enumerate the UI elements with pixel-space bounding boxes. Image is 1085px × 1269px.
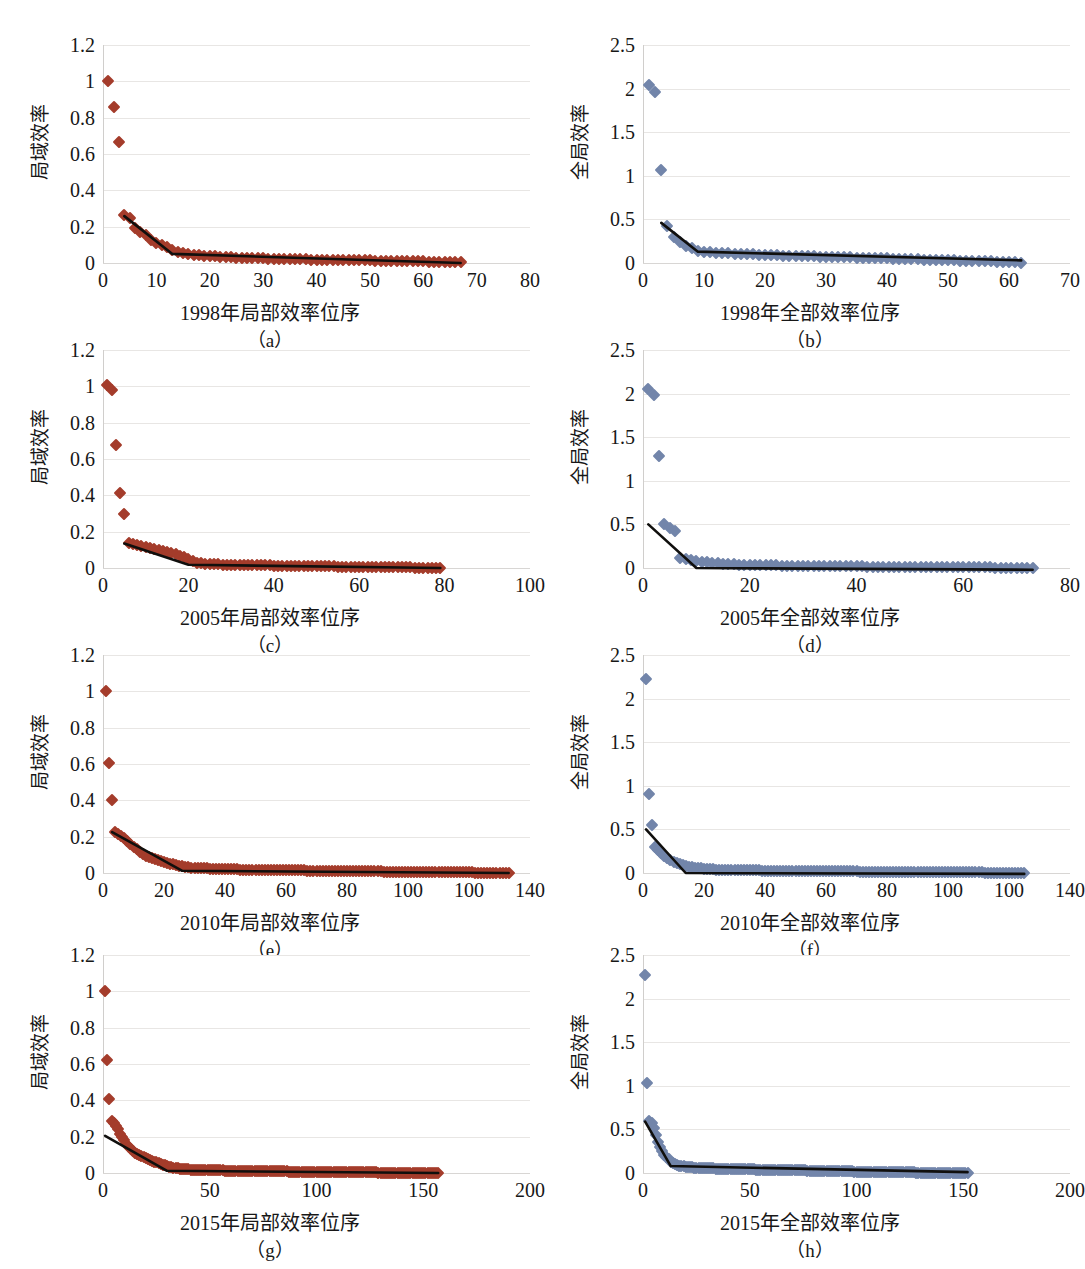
x-tick-label: 20: [755, 270, 775, 290]
fit-line-b: [643, 45, 1070, 263]
fit-line-g: [103, 955, 530, 1173]
x-tick-label: 100: [994, 880, 1024, 900]
y-tick-label: 0.5: [610, 514, 635, 534]
x-tick-label: 150: [948, 1180, 978, 1200]
chart-panel-b: 00.511.522.5010203040506070全局效率1998年全部效率…: [540, 30, 1080, 330]
y-tick-label: 0.6: [70, 754, 95, 774]
x-tick-label: 100: [842, 1180, 872, 1200]
x-axis-title: 2005年全部效率位序: [540, 602, 1080, 631]
chart-panel-c: 00.20.40.60.811.2020406080100局域效率2005年局部…: [0, 335, 540, 635]
y-tick-label: 0.4: [70, 485, 95, 505]
y-tick-label: 0: [625, 1163, 635, 1183]
x-tick-label: 60: [276, 880, 296, 900]
y-axis-title: 全局效率: [565, 714, 592, 790]
x-tick-label: 40: [877, 270, 897, 290]
plot-canvas-h: [643, 955, 1070, 1173]
x-tick-label: 80: [337, 880, 357, 900]
x-tick-label: 200: [1055, 1180, 1085, 1200]
y-tick-label: 0.5: [610, 209, 635, 229]
plot-area-a: 00.20.40.60.811.201020304050607080: [103, 45, 530, 263]
x-tick-label: 100: [302, 1180, 332, 1200]
y-tick-label: 0: [625, 863, 635, 883]
y-tick-label: 2.5: [610, 945, 635, 965]
chart-panel-a: 00.20.40.60.811.201020304050607080局域效率19…: [0, 30, 540, 330]
chart-panel-g: 00.20.40.60.811.2050100150200局域效率2015年局部…: [0, 940, 540, 1240]
x-tick-label: 20: [154, 880, 174, 900]
y-tick-label: 0.2: [70, 1127, 95, 1147]
x-tick-label: 60: [999, 270, 1019, 290]
x-tick-label: 0: [98, 880, 108, 900]
y-tick-label: 2: [625, 384, 635, 404]
plot-canvas-b: [643, 45, 1070, 263]
plot-canvas-c: [103, 350, 530, 568]
x-tick-label: 100: [393, 880, 423, 900]
x-tick-label: 40: [847, 575, 867, 595]
y-axis-title: 局域效率: [25, 104, 52, 180]
x-tick-label: 80: [877, 880, 897, 900]
plot-canvas-f: [643, 655, 1070, 873]
x-tick-label: 140: [1055, 880, 1085, 900]
y-tick-label: 1: [85, 376, 95, 396]
y-tick-label: 1.5: [610, 1032, 635, 1052]
x-tick-label: 20: [178, 575, 198, 595]
y-tick-label: 1.5: [610, 427, 635, 447]
x-tick-label: 60: [413, 270, 433, 290]
y-tick-label: 1: [85, 71, 95, 91]
x-tick-label: 50: [200, 1180, 220, 1200]
x-tick-label: 40: [215, 880, 235, 900]
y-tick-label: 0.8: [70, 1018, 95, 1038]
y-tick-label: 0.6: [70, 1054, 95, 1074]
y-tick-label: 0.6: [70, 144, 95, 164]
plot-canvas-a: [103, 45, 530, 263]
plot-area-g: 00.20.40.60.811.2050100150200: [103, 955, 530, 1173]
x-tick-label: 0: [638, 270, 648, 290]
x-tick-label: 70: [467, 270, 487, 290]
fit-line-c: [103, 350, 530, 568]
y-tick-label: 0.5: [610, 1119, 635, 1139]
plot-area-c: 00.20.40.60.811.2020406080100: [103, 350, 530, 568]
y-tick-label: 1.2: [70, 340, 95, 360]
y-tick-label: 1.2: [70, 35, 95, 55]
y-tick-label: 0: [85, 253, 95, 273]
y-tick-label: 1.2: [70, 645, 95, 665]
plot-area-b: 00.511.522.5010203040506070: [643, 45, 1070, 263]
y-tick-label: 0: [625, 558, 635, 578]
y-tick-label: 1: [85, 681, 95, 701]
y-tick-label: 2.5: [610, 35, 635, 55]
plot-area-e: 00.20.40.60.811.2020406080100100140: [103, 655, 530, 873]
y-tick-label: 0.4: [70, 790, 95, 810]
y-tick-label: 0: [625, 253, 635, 273]
y-tick-label: 2.5: [610, 645, 635, 665]
plot-canvas-d: [643, 350, 1070, 568]
x-tick-label: 80: [520, 270, 540, 290]
fit-line-f: [643, 655, 1070, 873]
y-tick-label: 2: [625, 689, 635, 709]
y-tick-label: 1: [625, 166, 635, 186]
x-tick-label: 30: [816, 270, 836, 290]
y-tick-label: 0.6: [70, 449, 95, 469]
x-tick-label: 50: [938, 270, 958, 290]
x-tick-label: 50: [740, 1180, 760, 1200]
y-axis-title: 局域效率: [25, 1014, 52, 1090]
y-tick-label: 1.5: [610, 732, 635, 752]
x-axis-title: 2015年全部效率位序: [540, 1207, 1080, 1236]
fit-line-e: [103, 655, 530, 873]
x-tick-label: 100: [933, 880, 963, 900]
x-tick-label: 100: [454, 880, 484, 900]
y-tick-label: 0.2: [70, 217, 95, 237]
x-tick-label: 20: [200, 270, 220, 290]
x-tick-label: 70: [1060, 270, 1080, 290]
fit-line-h: [643, 955, 1070, 1173]
x-tick-label: 40: [264, 575, 284, 595]
x-tick-label: 60: [349, 575, 369, 595]
x-axis-title: 2010年局部效率位序: [0, 907, 540, 936]
y-tick-label: 0: [85, 863, 95, 883]
x-axis-title: 2015年局部效率位序: [0, 1207, 540, 1236]
x-tick-label: 10: [694, 270, 714, 290]
x-axis-title: 2005年局部效率位序: [0, 602, 540, 631]
y-tick-label: 0.5: [610, 819, 635, 839]
y-tick-label: 0: [85, 558, 95, 578]
y-axis-title: 全局效率: [565, 409, 592, 485]
y-tick-label: 1: [625, 471, 635, 491]
fit-line-d: [643, 350, 1070, 568]
